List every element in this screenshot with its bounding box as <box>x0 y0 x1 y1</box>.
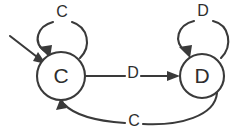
edge-label-c-to-d: D <box>127 64 139 81</box>
fsm-diagram: C D C D D C <box>0 0 244 140</box>
edge-label-d-to-c: C <box>128 112 140 129</box>
d-self-loop-right-arc <box>213 21 228 58</box>
start-arrow <box>10 36 46 64</box>
state-d-label: D <box>194 64 209 87</box>
state-node-c[interactable]: C <box>37 52 85 100</box>
transition-d-self <box>178 21 228 58</box>
edge-label-d-self: D <box>197 2 209 19</box>
c-self-loop-right-arc <box>72 22 87 58</box>
c-to-d-arrow-head <box>167 71 180 81</box>
d-to-c-curve-left <box>64 104 125 123</box>
state-node-d[interactable]: D <box>180 54 224 98</box>
d-self-loop-arrow-head <box>179 45 192 58</box>
state-c-label: C <box>53 64 68 87</box>
edge-label-c-self: C <box>56 3 68 20</box>
state-diagram-canvas: C D C D D C <box>0 0 244 140</box>
